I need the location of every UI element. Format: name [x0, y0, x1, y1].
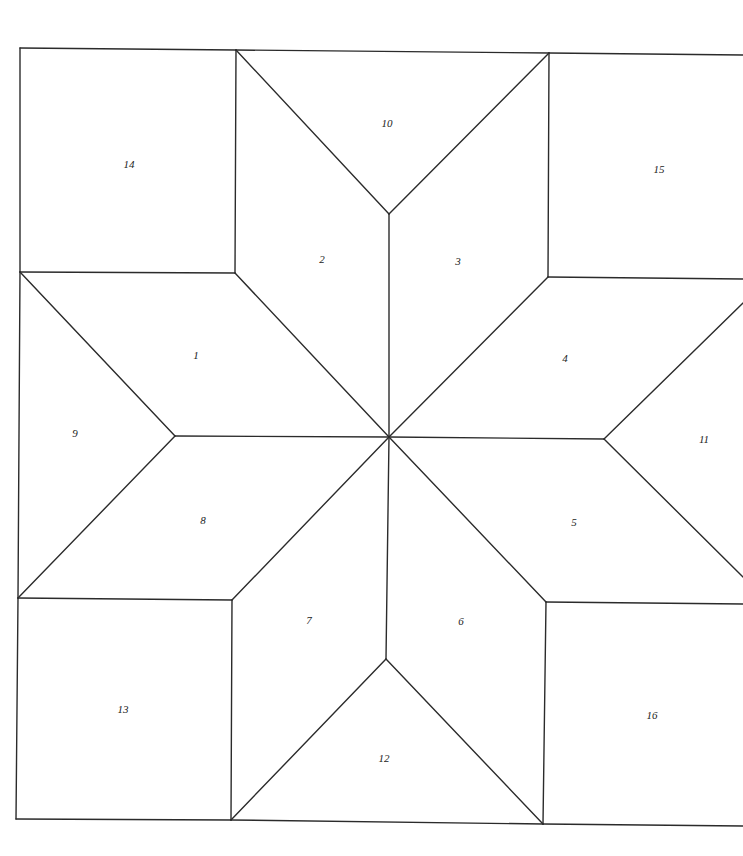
piece-label-4: 4	[562, 352, 568, 364]
diagram-edge	[604, 439, 743, 577]
piece-label-14: 14	[124, 158, 136, 170]
piece-label-7: 7	[306, 614, 312, 626]
diagram-edge	[231, 600, 232, 820]
diagram-edge	[549, 53, 743, 55]
diagram-edge	[543, 824, 743, 826]
eight-point-star-quilt-diagram: 12345678910111213141516	[0, 0, 743, 856]
piece-label-15: 15	[654, 163, 666, 175]
diagram-edge	[20, 272, 175, 436]
piece-label-10: 10	[382, 117, 394, 129]
diagram-edge	[16, 819, 231, 820]
diagram-edge	[389, 53, 549, 214]
piece-label-12: 12	[379, 752, 391, 764]
piece-label-9: 9	[72, 427, 78, 439]
diagram-edge	[386, 437, 389, 659]
piece-label-3: 3	[454, 255, 461, 267]
diagram-edge	[548, 53, 549, 277]
diagram-edge	[236, 50, 389, 214]
diagram-edge	[18, 598, 232, 600]
diagram-edge	[235, 273, 389, 437]
piece-label-13: 13	[118, 703, 130, 715]
diagram-edge	[20, 272, 235, 273]
diagram-edge	[386, 659, 543, 824]
piece-label-11: 11	[699, 433, 709, 445]
diagram-edge	[235, 50, 236, 273]
diagram-edge	[389, 437, 546, 602]
diagram-edge	[389, 437, 604, 439]
diagram-edge	[548, 277, 743, 279]
piece-label-1: 1	[193, 349, 199, 361]
piece-label-8: 8	[200, 514, 206, 526]
piece-label-5: 5	[571, 516, 577, 528]
diagram-edge	[231, 820, 543, 824]
diagram-edge	[175, 436, 389, 437]
diagram-edge	[236, 50, 549, 53]
diagram-edge	[389, 277, 548, 437]
diagram-edge	[18, 436, 175, 598]
diagram-edge	[604, 303, 743, 439]
diagram-edge	[231, 659, 386, 820]
diagram-edge	[18, 272, 20, 598]
piece-label-6: 6	[458, 615, 464, 627]
piece-label-2: 2	[319, 253, 325, 265]
diagram-edge	[232, 437, 389, 600]
piece-label-16: 16	[647, 709, 659, 721]
diagram-labels: 12345678910111213141516	[72, 117, 709, 764]
diagram-edge	[20, 48, 236, 50]
diagram-edge	[543, 602, 546, 824]
diagram-edge	[546, 602, 743, 604]
diagram-edge	[16, 598, 18, 819]
